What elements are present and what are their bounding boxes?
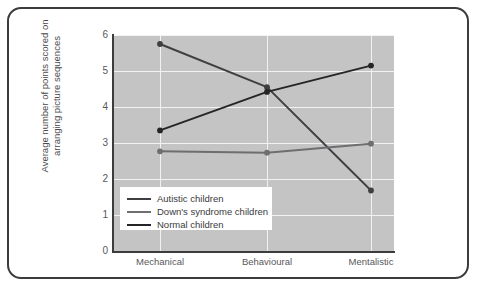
y-axis-tick-label: 0 (88, 246, 108, 256)
y-axis-tick-label: 5 (88, 66, 108, 76)
gridline-horizontal (113, 143, 394, 144)
legend-item: Normal children (127, 218, 224, 231)
gridline-vertical (371, 35, 372, 251)
legend-item: Autistic children (127, 192, 224, 205)
line-chart: 0123456 MechanicalBehaviouralMentalistic… (0, 0, 484, 297)
legend: Autistic childrenDown's syndrome childre… (120, 187, 272, 230)
y-axis-title: Average number of points scored on arran… (39, 1, 63, 191)
y-axis-tick-label: 3 (88, 138, 108, 148)
y-axis-title-line-2: arranging picture sequences (51, 1, 63, 191)
legend-label: Down's syndrome children (157, 206, 268, 217)
y-axis-tick-labels: 0123456 (86, 0, 108, 297)
legend-label: Autistic children (157, 193, 224, 204)
x-axis-line (112, 251, 395, 253)
y-axis-line (112, 34, 114, 252)
x-axis-tick-label: Mechanical (115, 256, 205, 268)
gridline-horizontal (113, 71, 394, 72)
y-axis-title-line-1: Average number of points scored on (39, 1, 51, 191)
gridline-horizontal (113, 35, 394, 36)
legend-line-swatch (127, 224, 151, 226)
y-axis-tick-label: 6 (88, 30, 108, 40)
y-axis-tick-label: 1 (88, 210, 108, 220)
x-axis-tick-label: Behavioural (222, 256, 312, 268)
legend-item: Down's syndrome children (127, 205, 268, 218)
legend-line-swatch (127, 198, 151, 200)
y-axis-tick-label: 4 (88, 102, 108, 112)
x-axis-tick-label: Mentalistic (326, 256, 416, 268)
y-axis-tick-label: 2 (88, 174, 108, 184)
gridline-horizontal (113, 179, 394, 180)
gridline-horizontal (113, 107, 394, 108)
legend-line-swatch (127, 211, 151, 213)
legend-label: Normal children (157, 219, 224, 230)
